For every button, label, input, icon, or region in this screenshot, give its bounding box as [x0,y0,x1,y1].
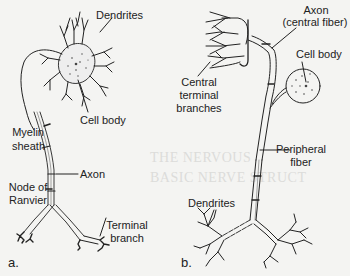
label-terminal-line1: Terminal [104,219,150,231]
label-cell-body-a: Cell body [80,114,126,126]
label-terminal-line2: branch [104,232,150,244]
neuron-diagram [0,0,350,276]
pointer-cell-body-a [78,80,88,112]
label-central-line2: terminal [176,89,222,101]
label-node-line1: Node of [8,181,48,193]
pointer-axon-b [272,28,296,48]
label-central-line1: Central [176,76,222,88]
panel-a-letter: a. [8,255,19,270]
label-cell-body-b: Cell body [296,48,342,60]
pointer-dendrites-b [208,210,214,226]
label-peripheral-line1: Peripheral [268,143,334,155]
label-myelin-line2: sheath [12,140,44,152]
label-dendrites-b: Dendrites [188,197,235,209]
label-axon-a: Axon [80,168,105,180]
label-central-line3: branches [176,102,222,114]
label-axon-b-line1: Axon [286,4,346,16]
pointer-myelin [44,124,50,126]
label-peripheral-line2: fiber [268,156,334,168]
neuron-figure: THE NERVOUS BASIC NERVE STRUCT [0,0,350,276]
label-dendrites-a: Dendrites [96,9,143,21]
label-myelin-line1: Myelin [12,126,44,138]
label-node-line2: Ranvier [8,194,48,206]
label-axon-b-line2: (central fiber) [280,16,350,28]
panel-b-letter: b. [181,255,192,270]
pointer-central-branches [198,62,210,76]
